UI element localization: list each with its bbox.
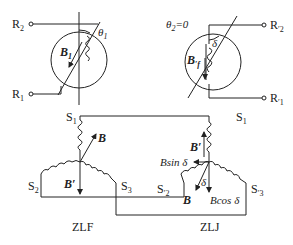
diagram-stage: R2 R1 θ1 B1 R′2 R′1 θ2=0 δ B′f S1: [0, 0, 293, 245]
r2p-label: R′2: [270, 18, 284, 34]
left-s3-label: S3: [121, 179, 132, 195]
delta-label: δ: [212, 37, 218, 49]
left-s1-coil: [78, 116, 82, 162]
r2-terminal: [29, 22, 33, 26]
left-bp-label: B′: [63, 177, 75, 191]
bcos-label: Bcos δ: [210, 194, 240, 206]
bfp-label: B′f: [186, 53, 201, 69]
right-s2-label: S′2: [157, 182, 169, 198]
synchro-diagram: R2 R1 θ1 B1 R′2 R′1 θ2=0 δ B′f S1: [0, 0, 293, 245]
right-s3-coil: [209, 161, 246, 183]
bsin-label: Bsin δ: [160, 156, 188, 168]
r1p-terminal: [262, 96, 266, 100]
right-s1-coil: [207, 116, 211, 162]
right-rotor-axis: [188, 16, 237, 98]
left-s1-label: S1: [66, 110, 77, 126]
left-s3-coil: [80, 161, 116, 183]
r2-label: R2: [12, 17, 24, 33]
r1p-wire: [209, 84, 262, 98]
b1-label: B1: [59, 45, 72, 61]
left-b-label: B: [97, 131, 106, 145]
r1-wire: [33, 86, 61, 94]
right-rotor: [185, 16, 262, 98]
zlf-label: ZLF: [72, 220, 94, 234]
left-b-arrow: [80, 134, 96, 162]
zlj-label: ZLJ: [200, 220, 220, 234]
left-s2-label: S2: [28, 179, 39, 195]
theta1-label: θ1: [98, 26, 107, 41]
r1-label: R1: [12, 87, 24, 103]
r2p-terminal: [262, 23, 266, 27]
right-s1-label: S1: [236, 110, 247, 126]
r1-terminal: [29, 92, 33, 96]
delta-small-label: δ: [201, 176, 207, 188]
left-rotor-coil: [86, 36, 90, 61]
right-b-label: B: [182, 193, 191, 207]
right-s3-label: S′3: [251, 182, 263, 198]
theta2-label: θ2=0: [166, 18, 189, 33]
right-stator: [181, 116, 246, 192]
r1p-label: R′1: [270, 91, 284, 107]
right-bp-label: B′: [189, 140, 201, 154]
